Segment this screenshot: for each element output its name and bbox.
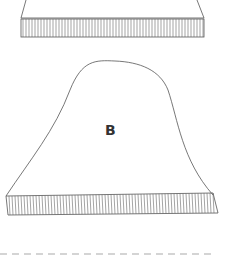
piece-b-label: B: [105, 122, 116, 138]
piece-a-ribbing: [21, 19, 204, 37]
piece-a: [21, 0, 204, 37]
